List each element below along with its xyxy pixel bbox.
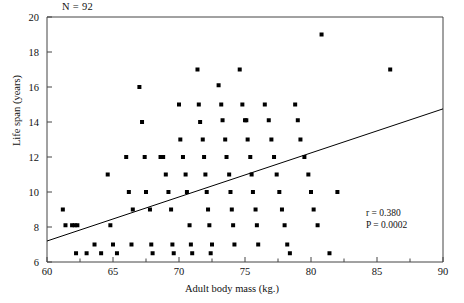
- data-point: [166, 190, 170, 194]
- correlation-coefficient-label: r = 0.380: [366, 208, 407, 220]
- data-point: [327, 251, 331, 255]
- data-point: [306, 173, 310, 177]
- data-point: [85, 251, 89, 255]
- data-point: [63, 223, 67, 227]
- svg-text:8: 8: [34, 222, 39, 233]
- svg-text:90: 90: [438, 266, 449, 277]
- data-point: [129, 243, 133, 247]
- data-point: [219, 103, 223, 107]
- data-point: [206, 208, 210, 212]
- data-point: [256, 243, 260, 247]
- data-point: [75, 223, 79, 227]
- data-point: [195, 68, 199, 72]
- statistics-annotation: r = 0.380 P = 0.0002: [366, 208, 407, 231]
- tick-labels: 6065707580859068101214161820: [29, 12, 449, 277]
- data-point: [263, 103, 267, 107]
- data-point: [254, 208, 258, 212]
- svg-text:10: 10: [29, 187, 40, 198]
- data-point: [246, 138, 250, 142]
- data-point: [177, 103, 181, 107]
- data-point: [131, 208, 135, 212]
- data-point: [201, 138, 205, 142]
- svg-text:85: 85: [372, 266, 383, 277]
- data-point: [221, 118, 225, 122]
- svg-text:75: 75: [240, 266, 251, 277]
- data-point: [230, 208, 234, 212]
- data-point: [267, 118, 271, 122]
- svg-text:60: 60: [42, 266, 53, 277]
- data-point: [255, 223, 259, 227]
- data-point: [170, 243, 174, 247]
- sample-size-label: N = 92: [62, 1, 93, 12]
- svg-text:16: 16: [29, 82, 40, 93]
- y-axis-label: Life span (years): [11, 51, 22, 171]
- svg-text:18: 18: [29, 47, 40, 58]
- svg-text:20: 20: [29, 12, 40, 23]
- data-point: [238, 68, 242, 72]
- data-point: [161, 155, 165, 159]
- data-point: [148, 208, 152, 212]
- data-point: [251, 190, 255, 194]
- data-point: [296, 118, 300, 122]
- data-point: [151, 251, 155, 255]
- data-point: [223, 138, 227, 142]
- data-point: [140, 120, 144, 124]
- data-point: [169, 208, 173, 212]
- data-point: [137, 85, 141, 89]
- data-point: [269, 138, 273, 142]
- data-point: [210, 243, 214, 247]
- data-point: [164, 173, 168, 177]
- data-point: [74, 251, 78, 255]
- data-point: [293, 103, 297, 107]
- data-point: [149, 243, 153, 247]
- data-point: [217, 83, 221, 87]
- data-point: [207, 223, 211, 227]
- data-point: [283, 223, 287, 227]
- data-point: [227, 173, 231, 177]
- data-points: [61, 33, 392, 256]
- data-point: [248, 155, 252, 159]
- data-point: [388, 68, 392, 72]
- data-point: [320, 33, 324, 37]
- svg-text:70: 70: [174, 266, 185, 277]
- data-point: [198, 120, 202, 124]
- data-point: [178, 138, 182, 142]
- plot-canvas: 6065707580859068101214161820: [0, 0, 464, 303]
- data-point: [316, 223, 320, 227]
- data-point: [143, 155, 147, 159]
- data-point: [225, 155, 229, 159]
- data-point: [181, 155, 185, 159]
- data-point: [205, 190, 209, 194]
- data-point: [275, 173, 279, 177]
- svg-text:14: 14: [29, 117, 40, 128]
- svg-text:12: 12: [29, 152, 40, 163]
- x-axis-label: Adult body mass (kg.): [0, 283, 464, 294]
- svg-text:80: 80: [306, 266, 317, 277]
- data-point: [127, 190, 131, 194]
- data-point: [115, 251, 119, 255]
- data-point: [197, 103, 201, 107]
- data-point: [228, 190, 232, 194]
- data-point: [244, 118, 248, 122]
- data-point: [108, 223, 112, 227]
- data-point: [93, 243, 97, 247]
- data-point: [144, 190, 148, 194]
- data-point: [184, 173, 188, 177]
- data-point: [189, 243, 193, 247]
- data-point: [309, 190, 313, 194]
- data-point: [272, 155, 276, 159]
- data-point: [209, 251, 213, 255]
- data-point: [312, 208, 316, 212]
- p-value-label: P = 0.0002: [366, 220, 407, 232]
- data-point: [188, 223, 192, 227]
- data-point: [190, 251, 194, 255]
- data-point: [240, 103, 244, 107]
- svg-text:65: 65: [108, 266, 119, 277]
- scatter-plot-figure: N = 92 Life span (years) Adult body mass…: [0, 0, 464, 303]
- data-point: [185, 190, 189, 194]
- data-point: [124, 155, 128, 159]
- data-point: [288, 251, 292, 255]
- data-point: [277, 190, 281, 194]
- data-point: [280, 208, 284, 212]
- data-point: [250, 173, 254, 177]
